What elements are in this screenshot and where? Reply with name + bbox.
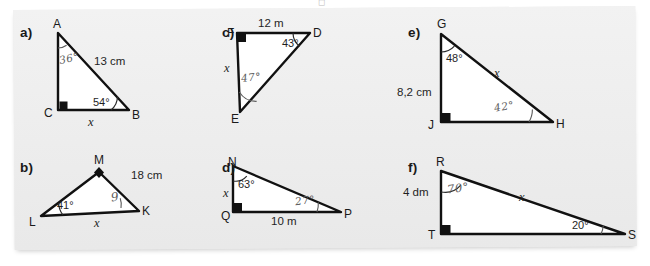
vertex-label-c-E: E [231,112,239,126]
side-label-c-x: x [224,61,230,76]
vertex-label-a-A: A [53,17,61,31]
vertex-label-a-B: B [132,108,140,122]
vertex-label-f-S: S [628,228,636,242]
side-label-e-x: x [494,66,500,81]
right-angle-marker-f [442,225,451,234]
angle-label-c-E: 47° [240,70,261,84]
vertex-label-d-N: N [228,155,237,169]
right-angle-marker-d [234,203,242,211]
angle-label-a-B: 54° [93,96,110,108]
angle-label-b-L: 41° [57,199,74,211]
vertex-label-d-Q: Q [221,209,230,223]
vertex-label-f-T: T [428,228,435,242]
vertex-label-c-F: F [227,26,234,40]
vertex-label-c-D: D [313,26,322,40]
side-label-f-x: x [519,190,525,205]
problem-label-f: f) [408,160,417,175]
side-label-d-x: x [223,186,229,201]
side-label-b-18cm: 18 cm [131,169,162,181]
side-label-c-12m: 12 m [258,17,284,29]
vertex-label-e-J: J [428,118,434,132]
side-label-e-82cm: 8,2 cm [397,86,432,98]
side-label-d-10m: 10 m [271,215,297,227]
vertex-label-d-P: P [344,207,352,221]
diagram-stage: ◻ [0,0,650,266]
triangle-b [41,167,139,216]
vertex-label-b-K: K [142,204,150,218]
right-angle-marker-c [238,34,246,42]
vertex-label-b-M: M [94,153,104,167]
side-label-b-x: x [94,216,100,231]
right-angle-marker-e [442,113,451,122]
vertex-label-f-R: R [436,155,445,169]
right-angle-marker-a [60,102,68,110]
problem-label-a: a) [20,25,32,40]
vertex-label-e-H: H [556,117,565,131]
vertex-label-e-G: G [437,17,446,31]
angle-label-c-D: 43° [282,37,299,49]
angle-label-f-S: 20° [572,219,589,231]
side-label-f-4dm: 4 dm [403,186,429,198]
angle-label-d-N: 63° [238,178,255,190]
vertex-label-a-C: C [44,106,53,120]
angle-label-d-P: 27° [294,193,315,207]
angle-label-e-G: 48° [446,52,463,64]
angle-label-b-K: 9 [110,190,120,205]
problem-label-b: b) [20,160,33,175]
triangle-f [441,171,625,234]
vertex-label-b-L: L [29,215,36,229]
side-label-a-13cm: 13 cm [94,55,125,67]
angle-label-f-R: 70° [446,180,470,197]
worksheet-page: ◻ [0,0,650,266]
side-label-a-x: x [88,115,94,130]
problem-label-e: e) [408,25,420,40]
